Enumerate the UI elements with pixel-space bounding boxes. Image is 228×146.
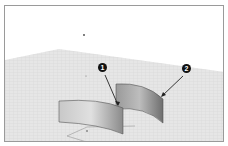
callout-1: 1 — [98, 63, 107, 72]
3d-viewport[interactable]: 1 2 — [4, 5, 224, 142]
scene — [5, 6, 224, 142]
point-marker — [85, 75, 86, 76]
callout-2: 2 — [182, 64, 191, 73]
point-marker — [86, 130, 88, 132]
point-marker — [83, 34, 85, 36]
